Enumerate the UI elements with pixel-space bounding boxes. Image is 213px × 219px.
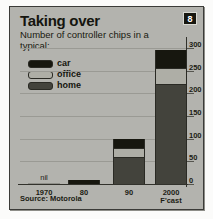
- chart-source: Source: Motorola: [20, 194, 82, 203]
- ylabel-300: 300: [189, 41, 202, 49]
- ylabel-0: 0: [189, 177, 193, 185]
- legend-item-office: office: [28, 65, 81, 75]
- x-axis-line: [18, 184, 188, 185]
- legend-item-car: car: [28, 54, 81, 64]
- gridline-300: [20, 48, 186, 49]
- bar-90-segment-car: [114, 139, 144, 148]
- ylabel-200: 200: [189, 86, 202, 94]
- chart-panel: Taking over Number of controller chips i…: [9, 6, 204, 210]
- bar-2000: [155, 50, 187, 184]
- chart-title: Taking over: [20, 13, 100, 29]
- bar-90-segment-home: [114, 158, 144, 184]
- legend-item-home: home: [28, 76, 81, 86]
- bar-2000-segment-car: [156, 50, 186, 68]
- xlabel-90: 90: [113, 188, 145, 197]
- ylabel-100: 100: [189, 132, 202, 140]
- chart-badge: 8: [183, 12, 197, 25]
- ylabel-150: 150: [189, 109, 202, 117]
- legend-swatch-home-icon: [28, 82, 53, 90]
- bar-90-segment-office: [114, 148, 144, 158]
- ylabel-250: 250: [189, 64, 202, 72]
- bar-label-nil: nil: [24, 173, 64, 182]
- ylabel-50: 50: [189, 154, 197, 162]
- xlabel-2000-forecast: F'cast: [153, 196, 189, 205]
- bar-2000-segment-office: [156, 68, 186, 85]
- plot-area: Taking over Number of controller chips i…: [10, 7, 203, 209]
- legend-label-home: home: [57, 81, 81, 90]
- bar-2000-segment-home: [156, 85, 186, 184]
- chart-figure: Taking over Number of controller chips i…: [0, 0, 213, 219]
- bar-90: [113, 139, 145, 184]
